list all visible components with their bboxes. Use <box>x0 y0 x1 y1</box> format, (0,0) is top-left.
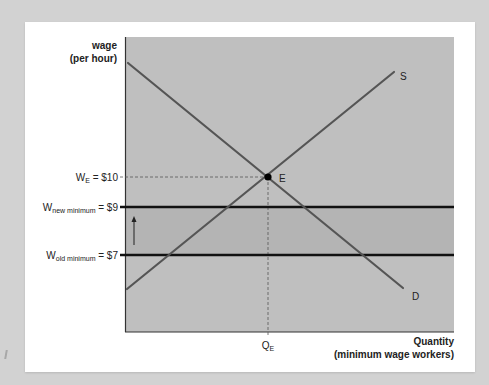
y-tick-new-minimum: Wnew minimum = $9 <box>43 202 119 214</box>
supply-label: S <box>400 71 407 82</box>
demand-label: D <box>412 291 419 302</box>
y-axis-title-line2: (per hour) <box>70 53 117 64</box>
y-axis-title-line1: wage <box>91 40 117 51</box>
x-tick-qe: QE <box>262 340 275 352</box>
x-axis-title-line2: (minimum wage workers) <box>334 349 454 360</box>
shaded-band <box>125 207 454 255</box>
equilibrium-point <box>264 173 271 180</box>
equilibrium-label: E <box>279 173 286 184</box>
y-tick-old-minimum: Wold minimum = $7 <box>46 250 118 262</box>
chart: S D E wage (per hour) WE = $10 Wnew mini… <box>0 0 489 385</box>
x-axis-title-line1: Quantity <box>413 336 454 347</box>
y-tick-we: WE = $10 <box>76 172 119 184</box>
